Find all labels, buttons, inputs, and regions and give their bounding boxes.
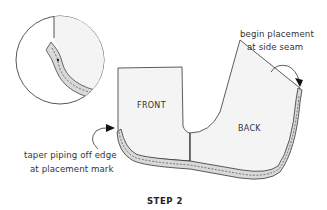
begin-placement-label-line1: begin placement [240, 29, 314, 39]
taper-piping-label-line1: taper piping off edge [24, 150, 117, 160]
step-label: STEP 2 [147, 196, 183, 206]
back-panel-label: BACK [238, 124, 261, 133]
front-panel [118, 67, 190, 161]
taper-piping-label-line2: at placement mark [30, 164, 114, 174]
taper-arrow [92, 124, 115, 149]
front-panel-label: FRONT [137, 101, 166, 110]
begin-placement-label-line2: at side seam [247, 42, 303, 52]
detail-magnifier [16, 14, 104, 104]
